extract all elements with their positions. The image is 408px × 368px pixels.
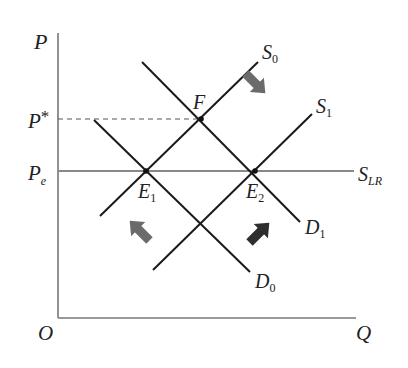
point-e2 (252, 168, 258, 174)
y-axis-label: P (33, 29, 47, 54)
supply-demand-diagram: P Q O P* Pe S0 S1 SLR D1 D0 E1 E2 F (0, 0, 408, 368)
x-axis-label: Q (356, 321, 371, 345)
s0-label: S0 (262, 41, 278, 66)
demand-back-arrow-icon (123, 214, 157, 248)
p-star-label: P* (27, 107, 49, 133)
origin-label: O (38, 321, 53, 345)
e1-label: E1 (137, 180, 156, 205)
point-f (198, 116, 204, 122)
d0-label: D0 (254, 270, 275, 295)
d1-label: D1 (304, 216, 325, 241)
demand-shift-arrow-icon (242, 216, 276, 250)
demand-curve-d1 (142, 62, 300, 222)
slr-label: SLR (358, 163, 383, 188)
p-e-label: Pe (27, 161, 47, 188)
f-label: F (192, 91, 206, 113)
s1-label: S1 (316, 95, 332, 120)
supply-curve-s0 (100, 62, 258, 216)
supply-curve-s1 (153, 114, 312, 270)
demand-curve-d0 (94, 120, 250, 272)
point-e1 (143, 168, 149, 174)
axes (58, 33, 356, 318)
supply-shift-arrow-icon (238, 66, 272, 100)
